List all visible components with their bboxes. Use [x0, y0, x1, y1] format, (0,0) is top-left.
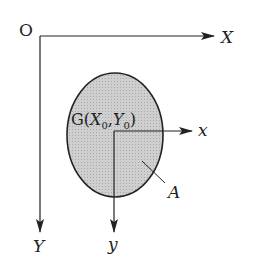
global-y-label: Y [33, 236, 46, 256]
centroid-label-suffix: ) [130, 110, 136, 129]
centroid-x-symbol: X [88, 110, 102, 129]
area-shape [67, 73, 163, 197]
local-x-label: x [198, 120, 208, 140]
global-x-label: X [219, 27, 234, 47]
origin-label: O [19, 20, 33, 40]
local-y-label: y [107, 234, 118, 254]
area-label: A [166, 182, 180, 202]
centroid-label-prefix: G( [71, 110, 90, 129]
centroid-diagram: O X Y G(X0,Y0) x y A [0, 0, 258, 266]
